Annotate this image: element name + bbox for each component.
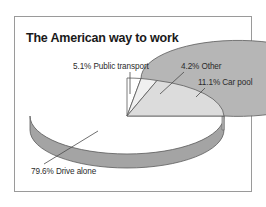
pie-chart-figure: The American way to work 5 [0, 0, 266, 207]
pie-3d-side [30, 116, 224, 168]
slice-label-other: 4.2% Other [181, 62, 221, 71]
slice-label-public-transport: 5.1% Public transport [73, 62, 149, 71]
slice-side-car-pool [222, 116, 224, 130]
slice-label-car-pool: 11.1% Car pool [198, 78, 252, 87]
slice-side-drive-alone [30, 116, 224, 168]
slice-label-drive-alone: 79.6% Drive alone [31, 167, 96, 176]
